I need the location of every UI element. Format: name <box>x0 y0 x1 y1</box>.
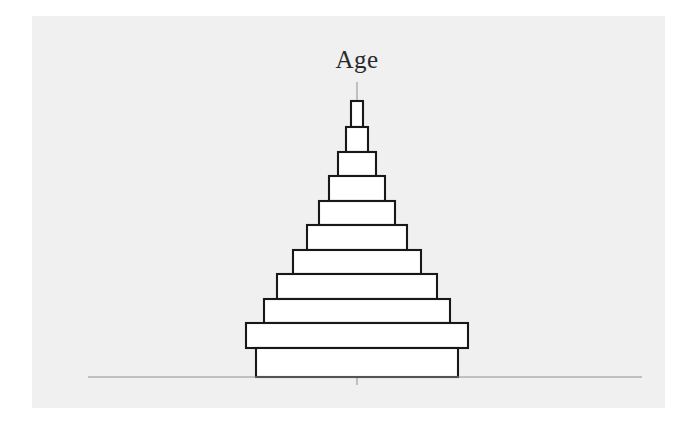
pyramid-bar-band-5 <box>293 250 421 274</box>
pyramid-bar-band-10 <box>346 127 368 152</box>
page-title: Age <box>336 46 379 73</box>
pyramid-bar-band-9 <box>338 152 376 176</box>
pyramid-bar-band-11-oldest <box>351 101 363 127</box>
pyramid-bars-group <box>246 101 468 377</box>
pyramid-bar-band-8 <box>329 176 385 201</box>
pyramid-bar-band-2 <box>246 323 468 348</box>
pyramid-bar-band-4 <box>277 274 437 299</box>
pyramid-bar-band-7 <box>319 201 395 225</box>
population-pyramid-chart: Age <box>0 0 698 424</box>
pyramid-bar-band-6 <box>307 225 407 250</box>
pyramid-bar-band-3 <box>264 299 450 323</box>
pyramid-bar-band-1-youngest <box>256 348 458 377</box>
figure-canvas: Age <box>0 0 698 424</box>
